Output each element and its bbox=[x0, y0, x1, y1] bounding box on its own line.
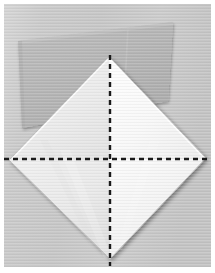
origami-illustration bbox=[0, 0, 215, 273]
photo-grain bbox=[4, 4, 211, 267]
origami-step-photo: A white square sheet of paper rotated 45… bbox=[0, 0, 215, 273]
